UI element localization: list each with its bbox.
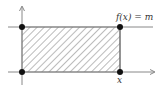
dot-top-right (117, 24, 123, 30)
function-label: f(x) = m (115, 12, 153, 22)
dot-origin (19, 69, 25, 75)
x-label: x (117, 75, 122, 85)
hatched-area (22, 27, 120, 72)
area-diagram: f(x) = m x (0, 0, 166, 90)
dot-top-left (19, 24, 25, 30)
